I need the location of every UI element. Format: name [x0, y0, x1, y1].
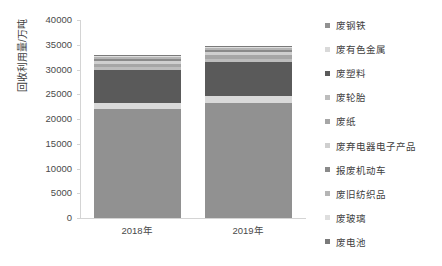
legend-item[interactable]: 废塑料: [325, 61, 442, 85]
legend-item[interactable]: 废钢铁: [325, 13, 442, 37]
x-axis-tick-label: 2018年: [82, 223, 192, 237]
y-axis-tick-label: 10000: [26, 164, 72, 174]
y-axis-tick-label: 5000: [26, 188, 72, 198]
legend-label: 废有色金属: [336, 42, 386, 56]
y-axis-tick-mark: [77, 218, 80, 219]
y-axis-tick-label: 20000: [26, 114, 72, 124]
y-axis-tick-label: 35000: [26, 40, 72, 50]
legend: 废钢铁废有色金属废塑料废轮胎废纸废弃电器电子产品报废机动车废旧纺织品废玻璃废电池: [325, 13, 442, 254]
legend-item[interactable]: 废电池: [325, 230, 442, 254]
legend-swatch-icon: [325, 143, 330, 148]
legend-swatch-icon: [325, 23, 330, 28]
stacked-bar-chart: 回收利用量/万吨 4000035000300002500020000150001…: [0, 0, 442, 266]
y-axis-tick-label: 30000: [26, 65, 72, 75]
legend-label: 报废机动车: [336, 163, 386, 177]
legend-swatch-icon: [325, 239, 330, 244]
legend-swatch-icon: [325, 167, 330, 172]
legend-swatch-icon: [325, 47, 330, 52]
legend-swatch-icon: [325, 71, 330, 76]
bar-segment[interactable]: [94, 109, 181, 218]
plot-area: [80, 20, 305, 218]
legend-label: 废电池: [336, 235, 366, 249]
legend-label: 废弃电器电子产品: [336, 139, 416, 153]
legend-label: 废旧纺织品: [336, 187, 386, 201]
y-axis-tick-label: 40000: [26, 15, 72, 25]
legend-swatch-icon: [325, 191, 330, 196]
legend-swatch-icon: [325, 215, 330, 220]
bar-2019年[interactable]: [205, 46, 292, 218]
legend-item[interactable]: 废玻璃: [325, 206, 442, 230]
legend-item[interactable]: 废有色金属: [325, 37, 442, 61]
legend-item[interactable]: 废弃电器电子产品: [325, 133, 442, 157]
bar-segment[interactable]: [205, 62, 292, 97]
y-axis-tick-label: 25000: [26, 89, 72, 99]
x-axis-tick-label: 2019年: [193, 223, 303, 237]
x-axis-line: [80, 218, 306, 219]
legend-item[interactable]: 废纸: [325, 109, 442, 133]
legend-item[interactable]: 报废机动车: [325, 158, 442, 182]
bar-2018年[interactable]: [94, 55, 181, 218]
legend-swatch-icon: [325, 95, 330, 100]
legend-item[interactable]: 废轮胎: [325, 85, 442, 109]
legend-label: 废塑料: [336, 66, 366, 80]
bar-segment[interactable]: [94, 70, 181, 103]
legend-item[interactable]: 废旧纺织品: [325, 182, 442, 206]
legend-label: 废纸: [336, 114, 356, 128]
figure-caption: [0, 262, 442, 266]
y-axis-tick-label: 0: [26, 213, 72, 223]
legend-swatch-icon: [325, 119, 330, 124]
legend-label: 废钢铁: [336, 18, 366, 32]
legend-label: 废轮胎: [336, 90, 366, 104]
bar-segment[interactable]: [205, 103, 292, 218]
legend-label: 废玻璃: [336, 211, 366, 225]
y-axis-tick-label: 15000: [26, 139, 72, 149]
